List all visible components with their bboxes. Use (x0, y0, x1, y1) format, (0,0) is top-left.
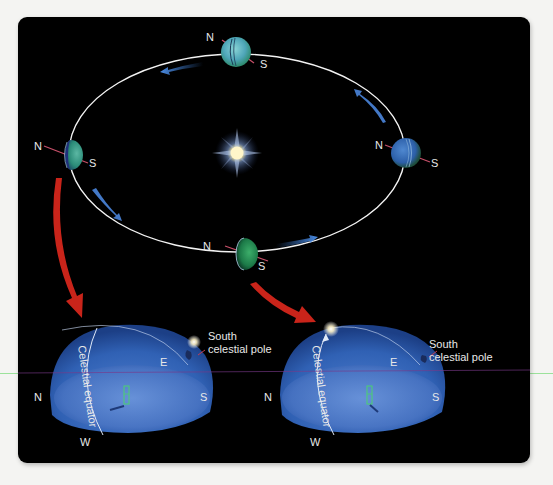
earth-icon (391, 138, 421, 168)
planet-top: N S (206, 31, 267, 70)
south-label: S (431, 157, 438, 169)
south-celestial-pole-label-line2: celestial pole (208, 343, 272, 355)
south-label: S (258, 260, 265, 272)
sky-dome-left: Celestial equator South celestial pole N… (34, 325, 272, 448)
north-label: N (34, 140, 42, 152)
east-label: E (390, 356, 397, 368)
sun-position-icon (323, 321, 339, 337)
earth-icon (221, 37, 251, 67)
planet-bottom: N S (203, 238, 268, 272)
north-label: N (375, 139, 383, 151)
south-celestial-pole-label-line2: celestial pole (429, 351, 493, 363)
pointer-arrow-left (53, 178, 83, 318)
south-label: S (432, 391, 439, 403)
sun-position-icon (187, 335, 201, 349)
orbit-diagram: N S N S N S N S (18, 17, 530, 463)
motion-arrow-right (354, 89, 386, 123)
north-label: N (203, 240, 211, 252)
south-label: S (200, 391, 207, 403)
guide-line-right (530, 373, 553, 374)
south-celestial-pole-label: South (429, 338, 458, 350)
north-label: N (206, 31, 214, 43)
north-label: N (34, 391, 42, 403)
sky-dome-right: Celestial equator South celestial pole N… (264, 321, 493, 448)
east-label: E (160, 356, 167, 368)
diagram-panel: N S N S N S N S (18, 17, 530, 463)
sun-icon (212, 128, 262, 178)
south-label: S (89, 157, 96, 169)
pointer-arrow-right (250, 282, 316, 323)
south-celestial-pole-label: South (208, 330, 237, 342)
motion-arrow-top (160, 62, 203, 75)
planet-right: N S (375, 138, 438, 169)
planet-left: N S (34, 140, 96, 170)
west-label: W (80, 436, 91, 448)
west-label: W (310, 436, 321, 448)
north-label: N (264, 391, 272, 403)
guide-line-left (0, 373, 18, 374)
south-label: S (260, 58, 267, 70)
